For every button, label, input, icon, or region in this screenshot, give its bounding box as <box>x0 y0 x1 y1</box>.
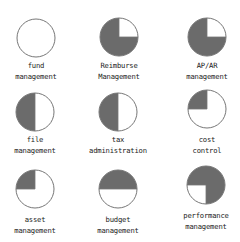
label-line-2: management <box>0 226 75 237</box>
label-line-1: asset <box>0 215 75 226</box>
pie-quadrant-icon <box>0 0 75 242</box>
label-line-2: management <box>166 222 240 233</box>
item-label: budgetmanagement <box>78 215 158 236</box>
pie-quadrant-icon <box>166 0 240 242</box>
pie-quadrant-icon <box>78 0 158 242</box>
item-label: performancemanagement <box>166 211 240 232</box>
label-line-2: management <box>78 226 158 237</box>
item-label: assetmanagement <box>0 215 75 236</box>
label-line-1: budget <box>78 215 158 226</box>
label-line-1: performance <box>166 211 240 222</box>
